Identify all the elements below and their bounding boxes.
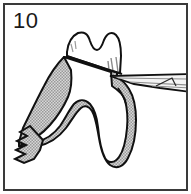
figure-number-label: 10	[13, 10, 38, 32]
figure-panel: 10	[0, 0, 191, 194]
